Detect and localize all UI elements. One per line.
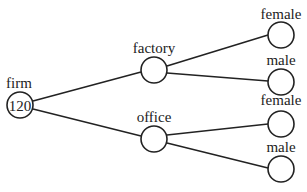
node-office-male: male — [266, 139, 295, 182]
edge-office-male — [167, 143, 268, 168]
node-circle — [268, 111, 294, 137]
edge-factory-female — [167, 35, 268, 66]
node-circle — [141, 57, 167, 83]
edge-factory-male — [167, 73, 268, 81]
node-office-female: female — [261, 92, 302, 137]
node-label: firm — [6, 75, 32, 91]
node-label: female — [261, 92, 302, 108]
node-label: office — [137, 109, 172, 125]
node-factory-male: male — [266, 52, 295, 95]
node-label: male — [266, 139, 295, 155]
node-label: female — [261, 6, 302, 22]
edge-firm-factory — [33, 72, 141, 101]
node-label: factory — [133, 40, 176, 56]
node-firm: firm 120 — [6, 75, 33, 118]
node-circle — [141, 126, 167, 152]
node-circle — [268, 22, 294, 48]
node-factory: factory — [133, 40, 176, 83]
edge-firm-office — [33, 109, 141, 136]
edge-office-female — [167, 124, 268, 135]
tree-diagram: firm 120 factory office female male fema… — [0, 0, 307, 192]
node-factory-female: female — [261, 6, 302, 48]
node-office: office — [137, 109, 172, 152]
node-label: male — [266, 52, 295, 68]
node-circle — [268, 156, 294, 182]
node-value: 120 — [9, 98, 32, 114]
